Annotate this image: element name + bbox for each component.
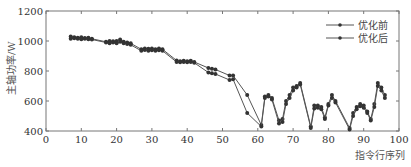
x-tick-label: 100	[389, 134, 408, 145]
data-point	[348, 128, 352, 132]
data-point	[153, 49, 157, 53]
data-point	[326, 104, 330, 108]
data-point	[298, 83, 302, 87]
data-point	[277, 122, 281, 126]
data-point	[118, 40, 122, 44]
data-point	[86, 37, 90, 41]
line-chart: 0102030405060708090100 40060080010001200…	[0, 0, 411, 167]
legend-label-before: 优化前	[358, 19, 388, 31]
x-tick-label: 50	[216, 134, 229, 145]
y-tick-label: 1200	[18, 6, 43, 17]
data-point	[323, 117, 327, 121]
data-point	[379, 89, 383, 93]
data-point	[104, 41, 108, 45]
data-point	[316, 106, 320, 110]
x-tick-label: 10	[75, 134, 88, 145]
data-point	[228, 74, 232, 78]
legend: 优化前 优化后	[326, 19, 388, 44]
plot-border	[46, 11, 399, 131]
data-point	[330, 96, 334, 100]
data-point	[245, 93, 249, 97]
series-layer	[69, 35, 387, 132]
x-tick-label: 90	[357, 134, 370, 145]
data-point	[210, 71, 214, 75]
data-point	[125, 42, 129, 46]
data-point	[69, 37, 73, 41]
data-point	[228, 78, 232, 82]
x-tick-label: 20	[110, 134, 123, 145]
data-point	[263, 96, 267, 100]
data-point	[245, 111, 249, 115]
data-point	[383, 96, 387, 100]
data-point	[182, 60, 186, 64]
data-point	[79, 37, 83, 41]
data-point	[192, 61, 196, 65]
data-point	[111, 41, 115, 45]
y-tick-label: 400	[24, 126, 43, 137]
x-tick-label: 30	[146, 134, 159, 145]
data-point	[76, 37, 80, 41]
data-point	[189, 60, 193, 64]
data-point	[108, 41, 112, 45]
data-point	[115, 41, 119, 45]
series-line	[71, 38, 385, 129]
data-point	[281, 120, 285, 124]
data-point	[259, 125, 263, 129]
data-point	[206, 66, 210, 70]
data-point	[213, 68, 217, 72]
data-point	[266, 95, 270, 99]
data-point	[157, 48, 161, 52]
data-point	[362, 106, 366, 110]
x-tick-label: 40	[181, 134, 194, 145]
series-before	[69, 35, 387, 131]
data-point	[288, 96, 292, 100]
data-point	[185, 60, 189, 64]
legend-label-after: 优化后	[358, 32, 388, 44]
data-point	[175, 60, 179, 64]
data-point	[295, 86, 299, 90]
data-point	[150, 48, 154, 52]
data-point	[143, 48, 147, 52]
data-point	[206, 71, 210, 75]
data-point	[376, 84, 380, 88]
data-point	[351, 114, 355, 118]
data-point	[90, 38, 94, 42]
y-axis-title: 主轴功率/W	[5, 41, 17, 95]
data-point	[312, 107, 316, 111]
data-point	[284, 102, 288, 106]
x-tick-label: 70	[287, 134, 300, 145]
data-point	[358, 104, 362, 108]
data-point	[309, 126, 313, 130]
data-point	[365, 111, 369, 115]
data-point	[160, 49, 164, 53]
x-axis-title: 指令行序列	[355, 149, 405, 161]
data-point	[178, 60, 182, 64]
data-point	[210, 67, 214, 71]
series-line	[71, 37, 385, 129]
data-point	[146, 49, 150, 53]
legend-marker-after	[338, 36, 342, 40]
data-point	[129, 43, 133, 47]
data-point	[72, 36, 76, 40]
data-point	[355, 107, 359, 111]
x-tick-label: 80	[322, 134, 335, 145]
data-point	[270, 98, 274, 102]
legend-marker-before	[338, 23, 342, 27]
data-point	[231, 74, 235, 78]
data-point	[369, 119, 373, 123]
y-tick-label: 800	[24, 66, 43, 77]
data-point	[213, 72, 217, 76]
data-point	[372, 105, 376, 109]
data-point	[83, 37, 87, 41]
data-point	[231, 77, 235, 81]
data-point	[139, 49, 143, 53]
data-point	[319, 107, 323, 111]
data-point	[122, 41, 126, 45]
x-tick-label: 60	[251, 134, 264, 145]
data-point	[333, 101, 337, 105]
plot-frame	[46, 11, 399, 131]
y-tick-label: 1000	[18, 36, 43, 47]
data-point	[291, 89, 295, 93]
series-after	[69, 36, 387, 131]
y-tick-label: 600	[24, 96, 43, 107]
